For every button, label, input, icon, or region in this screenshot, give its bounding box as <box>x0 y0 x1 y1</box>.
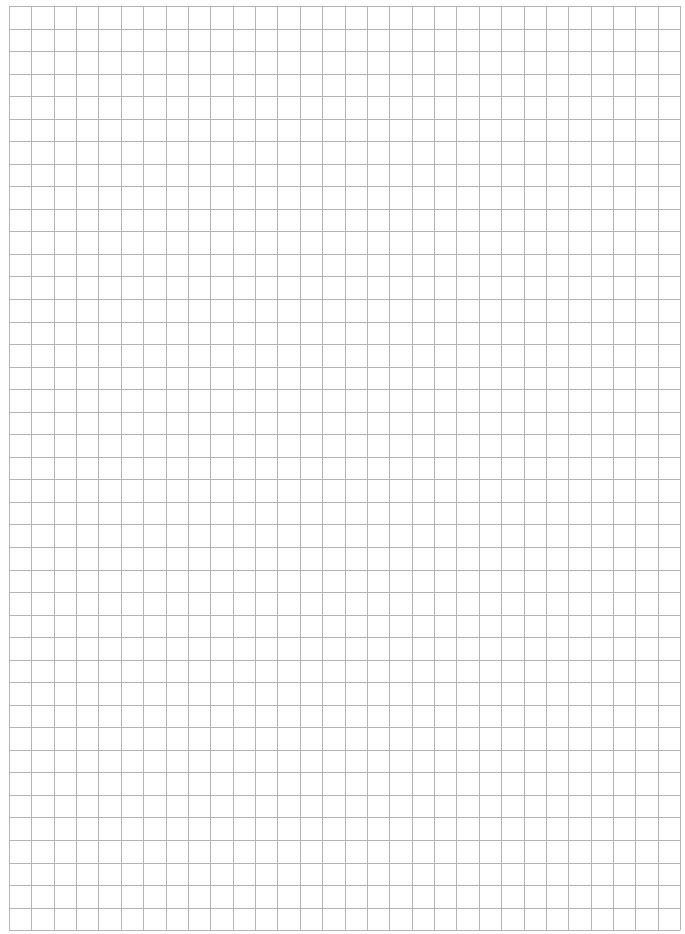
grid-lines <box>0 0 685 934</box>
graph-paper-page <box>0 0 685 934</box>
